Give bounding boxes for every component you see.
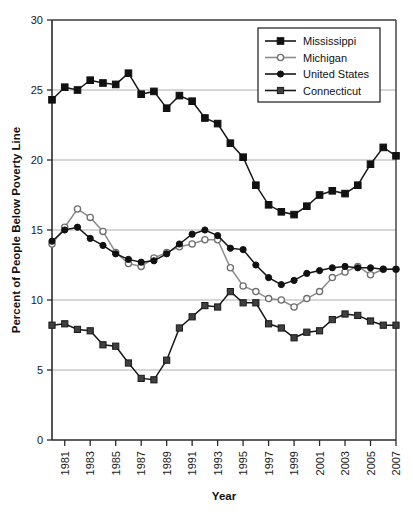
- series-line-1: [52, 209, 396, 307]
- datapoint-3-1995: [240, 300, 246, 306]
- datapoint-2-1982: [74, 224, 80, 230]
- datapoint-0-1996: [253, 182, 260, 189]
- datapoint-0-1998: [278, 209, 285, 216]
- datapoint-2-1980: [49, 238, 55, 244]
- datapoint-1-1984: [100, 228, 106, 234]
- datapoint-1-1983: [87, 214, 93, 220]
- datapoint-1-1992: [202, 237, 208, 243]
- datapoint-3-1996: [253, 300, 259, 306]
- datapoint-1-1995: [240, 283, 246, 289]
- datapoint-2-1989: [164, 251, 170, 257]
- datapoint-0-1982: [74, 87, 81, 94]
- poverty-line-chart: 0510152025301981198319851987198919911993…: [0, 0, 413, 522]
- series-line-3: [52, 292, 396, 380]
- datapoint-2-1998: [278, 282, 284, 288]
- datapoint-0-2002: [329, 188, 336, 195]
- y-tick-label-30: 30: [31, 14, 43, 26]
- datapoint-2-1994: [227, 245, 233, 251]
- datapoint-3-2001: [316, 328, 322, 334]
- legend-marker-1: [277, 54, 283, 60]
- chart-svg: 0510152025301981198319851987198919911993…: [0, 0, 413, 522]
- datapoint-2-2007: [393, 266, 399, 272]
- x-tick-label-1991: 1991: [186, 451, 198, 475]
- x-tick-label-2007: 2007: [390, 451, 402, 475]
- datapoint-1-2000: [304, 296, 310, 302]
- x-tick-label-2005: 2005: [365, 451, 377, 475]
- datapoint-2-1990: [176, 241, 182, 247]
- datapoint-2-1986: [125, 256, 131, 262]
- datapoint-3-1989: [164, 357, 170, 363]
- datapoint-3-1988: [151, 377, 157, 383]
- x-tick-label-1983: 1983: [84, 451, 96, 475]
- legend-label-1: Michigan: [303, 52, 347, 64]
- x-tick-label-1981: 1981: [59, 451, 71, 475]
- datapoint-2-2001: [316, 268, 322, 274]
- datapoint-1-2005: [367, 272, 373, 278]
- datapoint-3-1982: [74, 326, 80, 332]
- chart-legend: MississippiMichiganUnited StatesConnecti…: [258, 28, 380, 102]
- datapoint-3-2004: [355, 312, 361, 318]
- legend-label-0: Mississippi: [303, 35, 356, 47]
- x-tick-label-1997: 1997: [263, 451, 275, 475]
- datapoint-2-1997: [265, 275, 271, 281]
- datapoint-0-1993: [214, 120, 221, 127]
- legend-label-2: United States: [303, 68, 370, 80]
- datapoint-1-1991: [189, 241, 195, 247]
- x-tick-label-1993: 1993: [212, 451, 224, 475]
- datapoint-0-1987: [138, 91, 145, 98]
- x-tick-label-1989: 1989: [161, 451, 173, 475]
- datapoint-3-1994: [227, 289, 233, 295]
- x-axis-ticks: 1981198319851987198919911993199519971999…: [59, 440, 402, 475]
- datapoint-3-2007: [393, 322, 399, 328]
- y-tick-label-5: 5: [37, 364, 43, 376]
- datapoint-2-1992: [202, 227, 208, 233]
- datapoint-3-1997: [265, 321, 271, 327]
- datapoint-3-1985: [113, 343, 119, 349]
- datapoint-1-2002: [329, 275, 335, 281]
- x-tick-label-1985: 1985: [110, 451, 122, 475]
- series-connecticut: [49, 289, 399, 383]
- datapoint-2-2000: [304, 270, 310, 276]
- datapoint-0-2001: [316, 192, 323, 199]
- datapoint-0-1985: [112, 81, 119, 88]
- datapoint-0-1980: [49, 97, 56, 104]
- x-tick-label-1987: 1987: [135, 451, 147, 475]
- datapoint-3-1983: [87, 328, 93, 334]
- datapoint-2-1993: [215, 233, 221, 239]
- datapoint-0-1999: [291, 211, 298, 218]
- datapoint-1-2001: [316, 289, 322, 295]
- datapoint-0-1983: [87, 77, 94, 84]
- legend-marker-0: [277, 38, 284, 45]
- datapoint-0-1994: [227, 140, 234, 147]
- datapoint-3-1981: [62, 321, 68, 327]
- datapoint-3-2006: [380, 322, 386, 328]
- y-axis-ticks: 051015202530: [31, 14, 52, 446]
- datapoint-3-1998: [278, 325, 284, 331]
- datapoint-0-1986: [125, 70, 132, 77]
- datapoint-3-2005: [367, 318, 373, 324]
- y-tick-label-25: 25: [31, 84, 43, 96]
- datapoint-2-1983: [87, 235, 93, 241]
- x-axis-title: Year: [212, 490, 237, 502]
- legend-marker-3: [277, 87, 283, 93]
- datapoint-0-1981: [61, 84, 68, 91]
- datapoint-0-1992: [202, 115, 209, 122]
- y-tick-label-10: 10: [31, 294, 43, 306]
- datapoint-1-1998: [278, 297, 284, 303]
- y-axis-title: Percent of People Below Poverty Line: [10, 127, 22, 333]
- datapoint-1-1999: [291, 304, 297, 310]
- datapoint-2-1981: [62, 227, 68, 233]
- datapoint-3-1987: [138, 375, 144, 381]
- datapoint-0-2005: [367, 161, 374, 168]
- datapoint-2-1988: [151, 258, 157, 264]
- legend-marker-2: [277, 71, 283, 77]
- datapoint-0-1995: [240, 154, 247, 161]
- datapoint-0-2000: [304, 203, 311, 210]
- y-tick-label-15: 15: [31, 224, 43, 236]
- datapoint-0-1990: [176, 92, 183, 99]
- datapoint-2-1995: [240, 247, 246, 253]
- datapoint-1-1982: [74, 206, 80, 212]
- x-tick-label-1995: 1995: [237, 451, 249, 475]
- x-tick-label-2003: 2003: [339, 451, 351, 475]
- series-michigan: [49, 206, 399, 310]
